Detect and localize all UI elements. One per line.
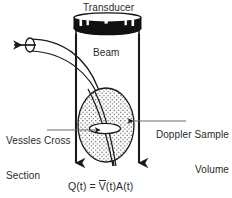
equation-v-arg: (t) — [106, 180, 116, 192]
label-doppler-sample-volume: Doppler Sample Volume — [145, 106, 229, 198]
transducer-housing — [76, 27, 139, 95]
transducer-crystal-head — [74, 13, 141, 35]
equation-mean-velocity-symbol: V — [99, 180, 106, 192]
label-vessel-cross-section-line1: Vessles Cross — [6, 135, 71, 147]
doppler-diagram-figure: Transducer Beam Vessles Cross Section Do… — [0, 0, 232, 198]
label-vessel-cross-section: Vessles Cross Section — [6, 112, 71, 198]
label-transducer: Transducer — [83, 2, 134, 14]
equation-left: Q(t) = — [68, 180, 99, 192]
equation-area-term: A(t) — [116, 180, 133, 192]
label-vessel-cross-section-line2: Section — [6, 170, 71, 182]
label-doppler-sample-volume-line1: Doppler Sample — [145, 129, 229, 141]
label-beam: Beam — [93, 47, 120, 59]
flow-equation: Q(t) = V(t)A(t) — [68, 180, 133, 193]
label-doppler-sample-volume-line2: Volume — [145, 164, 229, 176]
vessel-cross-section-ellipse — [90, 123, 121, 133]
